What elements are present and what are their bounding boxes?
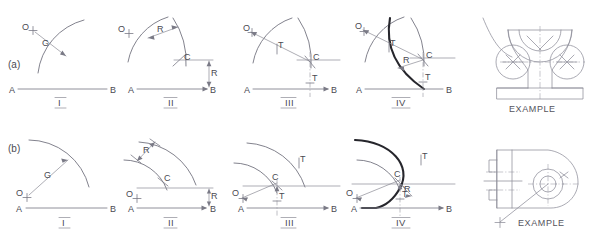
example-leader	[500, 184, 548, 222]
radius-leader	[398, 60, 423, 71]
label-radius-right-r: R	[211, 68, 218, 78]
label-intersection-c: C	[426, 50, 433, 60]
example-notch-top	[489, 160, 497, 172]
label-a: A	[238, 204, 244, 214]
construction-diagram: (a) O G A B I	[0, 0, 589, 236]
tangent-arc-heavy	[389, 18, 424, 89]
example-label: EXAMPLE	[518, 218, 565, 228]
baseline-arrowhead	[202, 206, 208, 211]
label-tangent-arc-t: T	[300, 154, 306, 164]
label-tangent-line-t: T	[402, 189, 408, 199]
step-numeral: II	[168, 217, 174, 228]
label-center-o: O	[232, 188, 239, 198]
label-tangent-arc-t: T	[390, 38, 396, 48]
line-o-to-c	[356, 180, 400, 198]
row-a-step-4: O T C R T A B IV	[355, 17, 455, 108]
row-b-label: (b)	[8, 143, 20, 154]
given-arc	[29, 140, 89, 187]
label-center-o: O	[118, 24, 125, 34]
label-intersection-c: C	[164, 173, 171, 183]
label-gap-g: G	[44, 170, 51, 180]
baseline-arrowhead	[203, 87, 209, 92]
given-arc	[365, 17, 404, 62]
label-gap-g: G	[42, 38, 49, 48]
label-a: A	[128, 85, 134, 95]
label-center-o: O	[22, 22, 29, 32]
label-center-o: O	[243, 23, 250, 33]
step-numeral: III	[285, 97, 294, 108]
example-left-profile	[508, 30, 528, 88]
center-mark-o	[125, 30, 133, 38]
label-b: B	[446, 85, 452, 95]
row-b-step-4: O C T R T A B IV	[346, 140, 455, 228]
label-a: A	[16, 204, 22, 214]
example-right-profile	[552, 30, 572, 88]
row-b-step-3: O C T T A B III	[232, 143, 340, 228]
row-a-example: EXAMPLE	[483, 18, 584, 114]
row-a-step-1: O G A B I	[9, 20, 116, 108]
label-tangent-line-t: T	[312, 73, 318, 83]
label-tangent-line-t: T	[279, 191, 285, 201]
baseline-arrowhead	[439, 206, 445, 211]
center-mark-o	[239, 195, 247, 203]
step-numeral: IV	[396, 97, 406, 108]
center-mark-o	[29, 27, 37, 35]
step-numeral: III	[285, 217, 294, 228]
row-b-example: EXAMPLE	[484, 150, 580, 228]
inner-offset-arc	[124, 160, 167, 190]
example-notch-bottom	[489, 190, 497, 200]
step-numeral: I	[58, 97, 61, 108]
label-tangent-line-t: T	[425, 72, 431, 82]
label-intersection-c: C	[272, 172, 279, 182]
drawing-sheet: (a) O G A B I	[0, 0, 589, 236]
label-a: A	[9, 85, 15, 95]
row-b: (b) O G A B I	[8, 139, 580, 228]
label-b: B	[110, 204, 116, 214]
label-center-o: O	[126, 189, 133, 199]
label-a: A	[244, 85, 250, 95]
given-arc	[253, 18, 292, 63]
label-radius-top-r: R	[143, 145, 150, 155]
label-a: A	[356, 85, 362, 95]
example-body	[497, 150, 578, 208]
label-radius-right-r: R	[211, 191, 218, 201]
row-a-step-2: R R C O A B II	[118, 17, 218, 108]
row-b-step-2: R C R O A B II	[124, 139, 218, 228]
label-radius-top-r: R	[157, 24, 164, 34]
row-a-step-3: O T C T A B III	[243, 18, 340, 108]
offset-arc	[298, 18, 311, 68]
label-tangent-arc-t: T	[422, 151, 428, 161]
gap-arrowhead	[60, 51, 66, 56]
line-o-to-c	[242, 183, 277, 198]
step-numeral: IV	[396, 217, 406, 228]
example-tangent-cross	[560, 172, 568, 178]
row-b-step-1: O G A B I	[16, 140, 116, 228]
label-a: A	[128, 204, 134, 214]
example-label: EXAMPLE	[509, 104, 556, 114]
row-a: (a) O G A B I	[8, 17, 584, 114]
label-tangent-arc-t: T	[278, 40, 284, 50]
center-mark-o	[133, 195, 141, 203]
label-b: B	[110, 85, 116, 95]
label-intersection-c: C	[313, 52, 320, 62]
label-center-o: O	[355, 21, 362, 31]
label-intersection-c: C	[184, 52, 191, 62]
label-b: B	[210, 85, 216, 95]
label-b: B	[210, 204, 216, 214]
row-a-label: (a)	[8, 59, 20, 70]
baseline-arrowhead	[324, 87, 330, 92]
label-b: B	[446, 204, 452, 214]
step-numeral: I	[62, 217, 65, 228]
label-a: A	[351, 204, 357, 214]
label-radius-r: R	[403, 55, 410, 65]
label-center-o: O	[346, 188, 353, 198]
step-numeral: II	[168, 97, 174, 108]
label-center-o: O	[16, 188, 23, 198]
label-b: B	[331, 204, 337, 214]
inner-offset-arc	[234, 163, 277, 193]
baseline-arrowhead	[324, 206, 330, 211]
center-mark-o	[353, 195, 361, 203]
example-leader	[483, 18, 512, 57]
label-b: B	[331, 85, 337, 95]
